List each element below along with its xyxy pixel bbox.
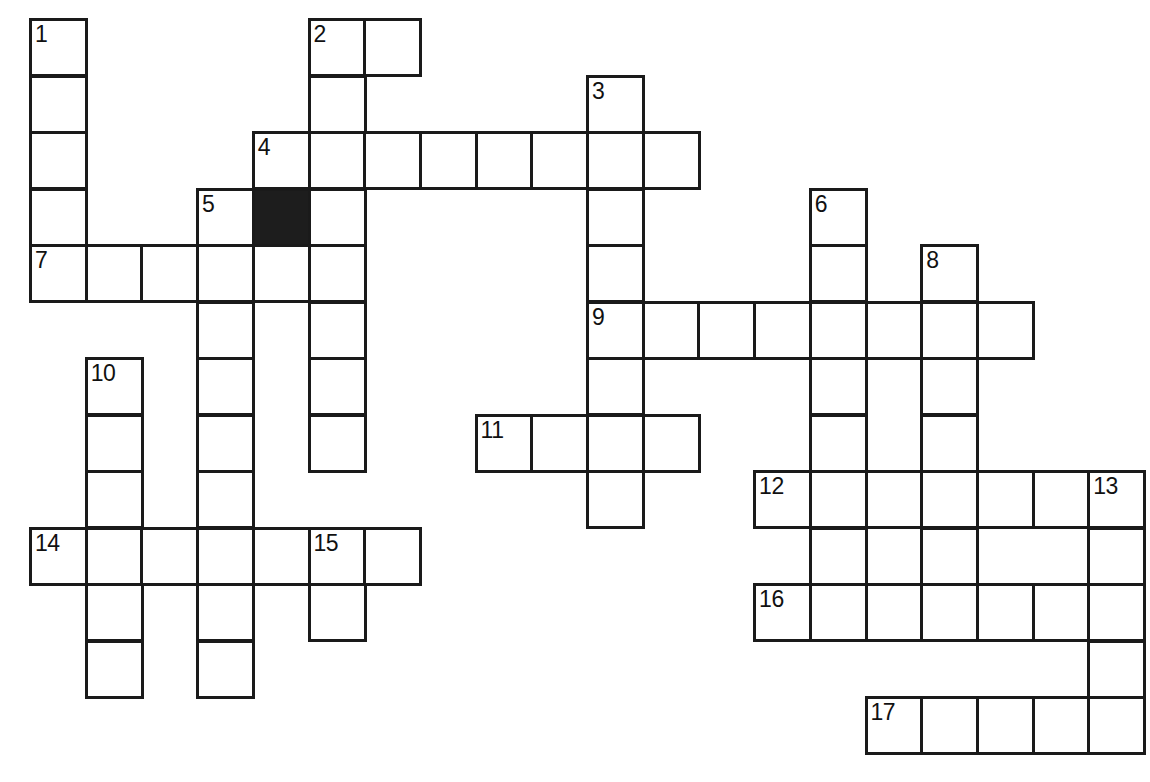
cell-letter[interactable] xyxy=(478,417,531,470)
cell-letter[interactable] xyxy=(1035,586,1088,639)
crossword-cell[interactable] xyxy=(920,527,979,586)
cell-letter[interactable] xyxy=(589,247,642,300)
cell-letter[interactable] xyxy=(199,586,252,639)
cell-letter[interactable] xyxy=(812,530,865,583)
cell-letter[interactable] xyxy=(88,586,141,639)
cell-letter[interactable] xyxy=(923,247,976,300)
crossword-cell[interactable] xyxy=(85,640,144,699)
crossword-cell[interactable] xyxy=(196,527,255,586)
crossword-cell[interactable] xyxy=(642,414,701,473)
cell-letter[interactable] xyxy=(1090,699,1143,752)
crossword-cell[interactable] xyxy=(85,470,144,529)
cell-letter[interactable] xyxy=(589,360,642,413)
cell-letter[interactable] xyxy=(311,304,364,357)
crossword-cell[interactable] xyxy=(920,301,979,360)
cell-letter[interactable] xyxy=(311,586,364,639)
crossword-cell[interactable] xyxy=(697,301,756,360)
cell-letter[interactable] xyxy=(311,78,364,131)
cell-letter[interactable] xyxy=(589,78,642,131)
crossword-cell[interactable] xyxy=(809,470,868,529)
crossword-cell[interactable] xyxy=(809,357,868,416)
cell-letter[interactable] xyxy=(199,417,252,470)
cell-letter[interactable] xyxy=(700,304,753,357)
cell-letter[interactable] xyxy=(311,134,364,187)
cell-letter[interactable] xyxy=(311,247,364,300)
cell-letter[interactable] xyxy=(311,417,364,470)
cell-letter[interactable] xyxy=(812,191,865,244)
crossword-cell[interactable] xyxy=(809,527,868,586)
crossword-cell[interactable] xyxy=(252,244,311,303)
cell-letter[interactable] xyxy=(533,134,586,187)
cell-letter[interactable] xyxy=(311,530,364,583)
cell-letter[interactable] xyxy=(533,417,586,470)
crossword-cell[interactable]: 12 xyxy=(753,470,812,529)
crossword-cell[interactable] xyxy=(809,414,868,473)
crossword-cell[interactable] xyxy=(363,527,422,586)
cell-letter[interactable] xyxy=(645,304,698,357)
crossword-cell[interactable]: 2 xyxy=(308,18,367,77)
cell-letter[interactable] xyxy=(868,586,921,639)
crossword-cell[interactable] xyxy=(140,244,199,303)
crossword-cell[interactable] xyxy=(196,640,255,699)
crossword-cell[interactable]: 8 xyxy=(920,244,979,303)
crossword-cell[interactable] xyxy=(586,244,645,303)
crossword-cell[interactable] xyxy=(976,301,1035,360)
cell-letter[interactable] xyxy=(1035,699,1088,752)
cell-letter[interactable] xyxy=(199,530,252,583)
crossword-cell[interactable] xyxy=(363,131,422,190)
cell-letter[interactable] xyxy=(589,417,642,470)
crossword-cell[interactable] xyxy=(586,414,645,473)
cell-letter[interactable] xyxy=(923,699,976,752)
cell-letter[interactable] xyxy=(255,134,308,187)
crossword-cell[interactable]: 13 xyxy=(1087,470,1146,529)
crossword-cell[interactable] xyxy=(29,188,88,247)
cell-letter[interactable] xyxy=(32,191,85,244)
crossword-cell[interactable] xyxy=(308,414,367,473)
crossword-cell[interactable] xyxy=(475,131,534,190)
cell-letter[interactable] xyxy=(143,247,196,300)
cell-letter[interactable] xyxy=(868,473,921,526)
cell-letter[interactable] xyxy=(199,360,252,413)
cell-letter[interactable] xyxy=(311,360,364,413)
cell-letter[interactable] xyxy=(199,643,252,696)
cell-letter[interactable] xyxy=(979,699,1032,752)
crossword-cell[interactable] xyxy=(976,583,1035,642)
crossword-cell[interactable] xyxy=(920,583,979,642)
crossword-cell[interactable] xyxy=(308,188,367,247)
crossword-cell[interactable]: 4 xyxy=(252,131,311,190)
crossword-cell[interactable] xyxy=(85,527,144,586)
crossword-cell[interactable] xyxy=(363,18,422,77)
cell-letter[interactable] xyxy=(32,530,85,583)
cell-letter[interactable] xyxy=(923,473,976,526)
cell-letter[interactable] xyxy=(589,473,642,526)
crossword-cell[interactable] xyxy=(586,131,645,190)
cell-letter[interactable] xyxy=(32,21,85,74)
crossword-cell[interactable] xyxy=(140,527,199,586)
crossword-cell[interactable] xyxy=(753,301,812,360)
crossword-cell[interactable]: 16 xyxy=(753,583,812,642)
crossword-cell[interactable] xyxy=(196,244,255,303)
crossword-cell[interactable] xyxy=(976,470,1035,529)
crossword-cell[interactable]: 6 xyxy=(809,188,868,247)
cell-letter[interactable] xyxy=(979,473,1032,526)
cell-letter[interactable] xyxy=(88,417,141,470)
crossword-cell[interactable] xyxy=(809,244,868,303)
crossword-cell[interactable]: 14 xyxy=(29,527,88,586)
crossword-cell[interactable] xyxy=(419,131,478,190)
crossword-cell[interactable] xyxy=(308,75,367,134)
cell-letter[interactable] xyxy=(1090,530,1143,583)
crossword-cell[interactable] xyxy=(920,357,979,416)
cell-letter[interactable] xyxy=(756,473,809,526)
cell-letter[interactable] xyxy=(923,304,976,357)
cell-letter[interactable] xyxy=(255,530,308,583)
crossword-cell[interactable] xyxy=(586,357,645,416)
cell-letter[interactable] xyxy=(199,191,252,244)
cell-letter[interactable] xyxy=(32,247,85,300)
crossword-cell[interactable] xyxy=(308,301,367,360)
cell-letter[interactable] xyxy=(366,134,419,187)
cell-letter[interactable] xyxy=(812,586,865,639)
cell-letter[interactable] xyxy=(923,360,976,413)
cell-letter[interactable] xyxy=(868,699,921,752)
cell-letter[interactable] xyxy=(812,417,865,470)
crossword-cell[interactable] xyxy=(196,357,255,416)
